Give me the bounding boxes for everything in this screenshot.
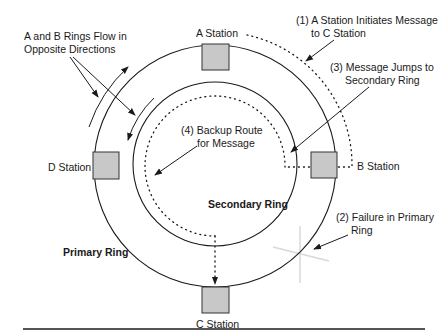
step4-annotation-line2: for Message bbox=[197, 137, 255, 149]
station-b-label: B Station bbox=[357, 160, 400, 172]
flow-annotation-line1: A and B Rings Flow in bbox=[24, 30, 127, 42]
ring-diagram: A Station B Station C Station D Station … bbox=[0, 0, 446, 330]
primary-ring-label: Primary Ring bbox=[63, 246, 128, 258]
station-a-label: A Station bbox=[196, 27, 238, 39]
station-d-label: D Station bbox=[48, 161, 91, 173]
station-a-box bbox=[202, 44, 229, 70]
message-path-backup bbox=[145, 96, 285, 236]
step2-annotation-line1: (2) Failure in Primary bbox=[336, 211, 435, 223]
step3-callout-arrow bbox=[291, 87, 369, 152]
diagram-svg: A Station B Station C Station D Station … bbox=[0, 0, 446, 330]
step4-callout-arrow bbox=[155, 146, 197, 175]
step1-annotation-line1: (1) A Station Initiates Message bbox=[296, 14, 438, 26]
secondary-ring-label: Secondary Ring bbox=[208, 198, 288, 210]
station-b-box bbox=[311, 152, 337, 178]
secondary-ring bbox=[133, 82, 297, 246]
flow-annotation-line2: Opposite Directions bbox=[24, 43, 116, 55]
station-d-box bbox=[93, 152, 119, 179]
step2-annotation-line2: Ring bbox=[351, 224, 373, 236]
station-c-box bbox=[202, 287, 229, 313]
step3-annotation-line2: Secondary Ring bbox=[345, 74, 420, 86]
step1-callout-arrow bbox=[306, 40, 334, 61]
step2-callout-arrow bbox=[314, 235, 348, 249]
step4-annotation-line1: (4) Backup Route bbox=[181, 124, 263, 136]
primary-flow-arrow bbox=[89, 67, 128, 127]
step1-annotation-line2: to C Station bbox=[311, 27, 366, 39]
flow-callout-arrow-2 bbox=[73, 57, 135, 115]
step3-annotation-line1: (3) Message Jumps to bbox=[330, 61, 434, 73]
secondary-flow-arrow bbox=[128, 98, 154, 140]
failure-mark bbox=[273, 226, 329, 283]
